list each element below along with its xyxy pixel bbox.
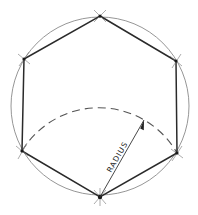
diagram-canvas: RADIUS — [0, 0, 198, 215]
vertex-points — [20, 14, 178, 199]
radius-line — [100, 120, 144, 197]
hexagon-construction-diagram: RADIUS — [0, 0, 198, 215]
radius-label: RADIUS — [105, 140, 130, 174]
circumscribed-circle — [11, 17, 189, 195]
dashed-radius-arc — [22, 108, 177, 153]
hexagon — [22, 16, 177, 197]
